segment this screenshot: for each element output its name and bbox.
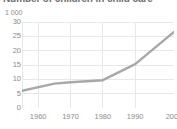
data-line	[22, 32, 174, 91]
plot-area	[22, 22, 174, 108]
line-chart-svg	[22, 22, 174, 108]
x-axis-tick-label: 1990	[127, 112, 144, 121]
gridlines	[22, 22, 174, 108]
y-axis-tick-label: 10	[1, 75, 21, 83]
x-axis-tick-label: 1980	[95, 112, 112, 121]
x-axis-tick-label: 1970	[62, 112, 79, 121]
chart-title: Number of children in child care	[3, 0, 153, 4]
y-axis-tick-labels: 302520151050	[0, 0, 21, 129]
y-axis-tick-label: 25	[1, 32, 21, 40]
chart-container: Number of children in child care 1 000 3…	[0, 0, 177, 129]
x-axis-tick-labels: 19601970198019902002	[22, 112, 174, 124]
x-axis-tick-label: 1960	[30, 112, 47, 121]
y-axis-tick-label: 5	[1, 90, 21, 98]
y-axis-tick-label: 15	[1, 61, 21, 69]
y-axis-tick-label: 30	[1, 18, 21, 26]
x-axis-tick-label: 2002	[166, 112, 177, 121]
y-axis-tick-label: 0	[1, 104, 21, 112]
data-series-group	[22, 32, 174, 91]
y-axis-tick-label: 20	[1, 47, 21, 55]
